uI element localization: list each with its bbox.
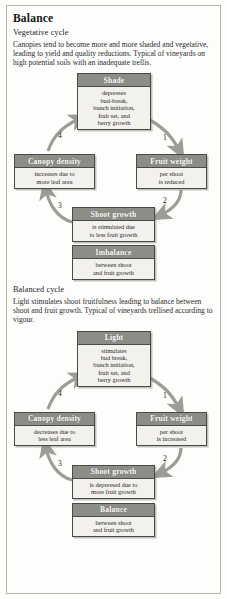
node-canopy-density-header: Canopy density (15, 413, 94, 426)
node-shoot-growth-body: is stimulated dueto less fruit growth (73, 221, 154, 240)
node-shade-header: Shade (78, 74, 150, 87)
arrow-label-4: 4 (58, 131, 62, 140)
node-light: Light stimulatesbud break,bunch initiati… (77, 331, 151, 388)
node-fruit-weight-body: per shootis reduced (137, 168, 206, 187)
node-shade: Shade depressesbud-break,bunch initiatio… (77, 73, 151, 130)
arrow-label-1: 1 (163, 133, 167, 142)
node-imbalance: Imbalance between shootand fruit growth (72, 245, 155, 279)
node-canopy-density-header: Canopy density (15, 155, 94, 168)
node-fruit-weight: Fruit weight per shootis increased (136, 412, 207, 446)
arrow-label-1: 1 (163, 391, 167, 400)
arrow-4 (48, 119, 79, 151)
node-imbalance-header: Imbalance (73, 246, 154, 259)
node-balance-body: between shootand fruit growth (73, 517, 154, 536)
node-shoot-growth-body: is depressed due tomore fruit growth (73, 479, 154, 498)
node-shoot-growth-header: Shoot growth (73, 466, 154, 479)
section-balanced-cycle: Balanced cycle Light stimulates shoot fr… (13, 285, 214, 535)
node-canopy-density: Canopy density increases due tomore leaf… (14, 154, 95, 188)
node-fruit-weight-body: per shootis increased (137, 426, 206, 445)
page-content: Balance Vegetative cycle Canopies tend t… (13, 12, 214, 536)
node-shoot-growth-header: Shoot growth (73, 208, 154, 221)
node-balance-header: Balance (73, 504, 154, 517)
scanned-page: Balance Vegetative cycle Canopies tend t… (0, 0, 227, 599)
section-paragraph: Light stimulates shoot fruitfulness lead… (13, 297, 214, 324)
arrow-label-3: 3 (58, 201, 62, 210)
arrow-label-3: 3 (58, 459, 62, 468)
page-title: Balance (13, 12, 214, 24)
vegetative-cycle-diagram: Shade depressesbud-break,bunch initiatio… (13, 73, 214, 278)
section-paragraph: Canopies tend to become more and more sh… (13, 40, 214, 67)
arrow-label-2: 2 (163, 196, 167, 205)
arrow-label-4: 4 (58, 389, 62, 398)
node-canopy-density-body: increases due tomore leaf area (15, 168, 94, 187)
section-subheading: Vegetative cycle (13, 28, 214, 37)
section-subheading: Balanced cycle (13, 285, 214, 294)
node-shade-body: depressesbud-break,bunch initiation,frui… (78, 87, 150, 129)
section-vegetative-cycle: Vegetative cycle Canopies tend to become… (13, 28, 214, 278)
node-fruit-weight: Fruit weight per shootis reduced (136, 154, 207, 188)
node-canopy-density: Canopy density decreases due toless leaf… (14, 412, 95, 446)
node-light-body: stimulatesbud break,bunch initiation,fru… (78, 345, 150, 387)
node-shoot-growth: Shoot growth is stimulated dueto less fr… (72, 207, 155, 241)
node-balance: Balance between shootand fruit growth (72, 503, 155, 537)
node-fruit-weight-header: Fruit weight (137, 155, 206, 168)
node-shoot-growth: Shoot growth is depressed due tomore fru… (72, 465, 155, 499)
node-fruit-weight-header: Fruit weight (137, 413, 206, 426)
arrow-4 (48, 377, 79, 409)
node-light-header: Light (78, 332, 150, 345)
balanced-cycle-diagram: Light stimulatesbud break,bunch initiati… (13, 331, 214, 536)
arrow-label-2: 2 (163, 454, 167, 463)
node-canopy-density-body: decreases due toless leaf area (15, 426, 94, 445)
node-imbalance-body: between shootand fruit growth (73, 259, 154, 278)
